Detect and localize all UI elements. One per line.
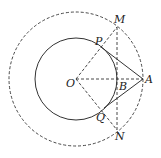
label-Q: Q [96,111,105,124]
geometry-diagram: M P O B A Q N [0,0,161,158]
label-N: N [114,130,125,143]
label-M: M [113,13,126,26]
label-B: B [118,80,127,93]
label-P: P [94,35,103,48]
label-O: O [66,77,75,90]
label-A: A [144,73,153,86]
tangent-PA [101,47,143,79]
